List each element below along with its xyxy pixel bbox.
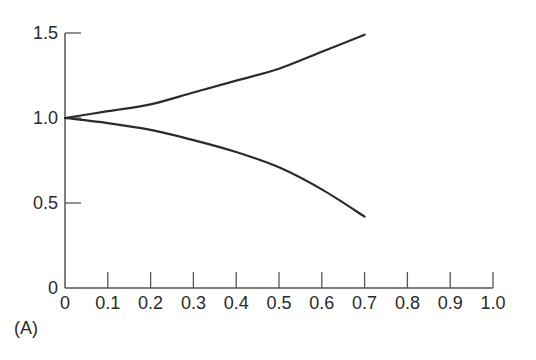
y-tick-label: 0: [48, 278, 58, 298]
x-tick-label: 0.4: [224, 293, 249, 313]
x-tick-label: 1.0: [480, 293, 505, 313]
x-tick-labels: 00.10.20.30.40.50.60.70.80.91.0: [60, 293, 506, 313]
x-tick-label: 0.8: [395, 293, 420, 313]
x-tick-label: 0: [60, 293, 70, 313]
x-tick-label: 0.5: [266, 293, 291, 313]
panel-label: (A): [14, 318, 38, 339]
y-tick-label: 0.5: [33, 193, 58, 213]
y-tick-label: 1.0: [33, 108, 58, 128]
line-chart: 00.51.01.5 00.10.20.30.40.50.60.70.80.91…: [0, 0, 536, 360]
axes: [65, 33, 493, 288]
curve-upper: [65, 35, 365, 118]
x-tick-label: 0.2: [138, 293, 163, 313]
x-tick-label: 0.6: [309, 293, 334, 313]
x-tick-label: 0.9: [438, 293, 463, 313]
y-tick-label: 1.5: [33, 23, 58, 43]
x-tick-label: 0.1: [95, 293, 120, 313]
y-tick-labels: 00.51.01.5: [33, 23, 58, 298]
x-tick-label: 0.3: [181, 293, 206, 313]
x-tick-label: 0.7: [352, 293, 377, 313]
curve-lower: [65, 118, 365, 217]
data-series: [65, 35, 365, 217]
